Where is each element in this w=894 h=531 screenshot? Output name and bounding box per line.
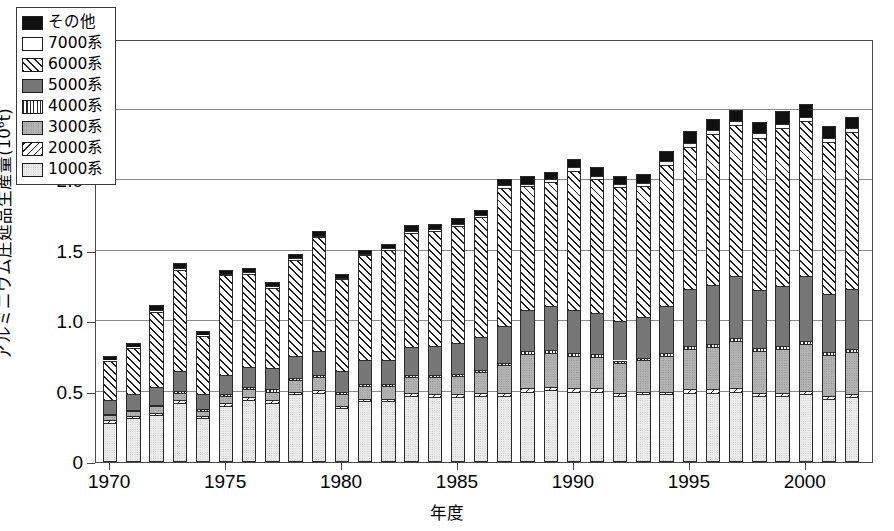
bar-segment-3000系 [799,344,813,391]
bar-segment-6000系 [149,312,163,387]
bar-segment-7000系 [544,179,558,182]
bar-segment-その他 [706,119,720,130]
bar-1990 [567,159,581,462]
bar-segment-5000系 [845,289,859,350]
bar-segment-4000系 [173,391,187,393]
bar-segment-2000系 [312,390,326,393]
bar-segment-5000系 [683,289,697,345]
bar-1980 [335,274,349,462]
bar-segment-7000系 [404,231,418,233]
bar-segment-3000系 [752,351,766,393]
bar-segment-5000系 [335,371,349,392]
bar-segment-4000系 [103,414,117,416]
bar-segment-その他 [149,305,163,311]
x-axis-tick-label: 1985 [417,472,497,491]
bar-segment-3000系 [358,386,372,399]
bar-segment-4000系 [775,346,789,349]
bar-segment-1000系 [567,392,581,463]
bar-segment-5000系 [196,394,210,410]
bar-segment-7000系 [149,310,163,312]
bar-segment-6000系 [312,237,326,351]
bar-segment-2000系 [683,389,697,393]
bar-1982 [381,244,395,462]
bar-1979 [312,231,326,462]
bar-segment-1000系 [335,408,349,462]
bar-segment-1000系 [729,392,743,463]
bar-1978 [288,254,302,462]
bar-segment-1000系 [149,415,163,462]
bar-segment-3000系 [706,347,720,389]
bar-segment-2000系 [103,420,117,422]
legend-swatch-2000系 [22,142,43,156]
bar-segment-6000系 [706,134,720,285]
bar-segment-その他 [358,250,372,254]
legend-item-1000系: 1000系 [22,159,110,180]
bar-segment-7000系 [451,224,465,226]
bar-segment-その他 [636,174,650,182]
bar-segment-2000系 [219,403,233,406]
bar-segment-1000系 [265,403,279,462]
bar-segment-1000系 [659,394,673,462]
bar-segment-2000系 [196,416,210,418]
bar-segment-6000系 [404,233,418,347]
bar-segment-その他 [242,268,256,272]
bar-segment-1000系 [799,394,813,462]
bar-segment-1000系 [683,393,697,462]
bar-segment-7000系 [590,176,604,180]
bar-segment-1000系 [544,390,558,462]
bar-segment-1000系 [474,396,488,462]
bar-1985 [451,218,465,462]
bar-segment-4000系 [590,354,604,357]
bar-segment-2000系 [822,396,836,399]
bar-1984 [428,224,442,462]
bar-segment-2000系 [613,393,627,396]
bar-1987 [497,179,511,462]
bar-segment-6000系 [288,260,302,356]
bar-segment-その他 [822,126,836,137]
bar-1999 [775,111,789,462]
bar-segment-3000系 [149,406,163,413]
bar-segment-6000系 [381,250,395,360]
bar-segment-3000系 [729,341,743,388]
x-axis-tick-mark [573,463,574,470]
legend-label: 6000系 [48,57,103,73]
bar-segment-7000系 [683,143,697,147]
bar-segment-3000系 [196,411,210,417]
bar-segment-5000系 [312,351,326,375]
x-axis-tick-label: 1990 [533,472,613,491]
bar-segment-その他 [219,270,233,274]
bar-segment-7000系 [265,286,279,288]
bar-segment-5000系 [636,317,650,358]
bar-segment-6000系 [219,275,233,375]
bar-segment-5000系 [706,285,720,344]
legend-item-その他: その他 [22,12,110,33]
bar-segment-7000系 [613,184,627,187]
bar-segment-4000系 [822,352,836,355]
bar-segment-その他 [799,104,813,117]
bar-segment-その他 [381,244,395,248]
bar-segment-2000系 [428,394,442,397]
bar-segment-1000系 [775,396,789,462]
bar-segment-1000系 [590,392,604,463]
bar-segment-2000系 [659,392,673,395]
x-axis-tick-mark [689,463,690,470]
bar-segment-5000系 [358,360,372,384]
bar-segment-その他 [659,151,673,161]
bar-segment-5000系 [149,387,163,405]
bar-segment-6000系 [265,288,279,368]
bar-segment-1000系 [497,396,511,462]
bar-segment-3000系 [381,386,395,399]
legend-label: 7000系 [48,36,103,52]
bar-segment-4000系 [520,351,534,354]
bar-segment-1000系 [196,418,210,462]
bar-segment-7000系 [288,258,302,260]
bar-segment-1000系 [173,403,187,462]
bar-segment-7000系 [567,167,581,171]
bar-segment-4000系 [474,370,488,372]
bar-segment-7000系 [312,236,326,238]
bar-segment-5000系 [173,371,187,391]
bar-1983 [404,225,418,462]
bar-segment-4000系 [265,389,279,391]
legend-label: 4000系 [48,99,103,115]
bar-segment-4000系 [613,361,627,364]
